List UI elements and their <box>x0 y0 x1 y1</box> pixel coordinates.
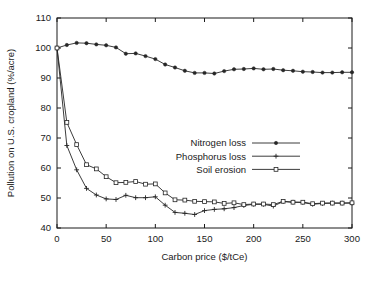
x-tick-label: 200 <box>246 233 262 244</box>
dot-marker <box>104 44 107 47</box>
square-marker <box>85 163 89 167</box>
dot-marker <box>340 71 343 74</box>
square-marker <box>163 191 167 195</box>
dot-marker <box>242 67 245 70</box>
series-soil-erosion <box>55 46 354 206</box>
dot-marker <box>114 46 117 49</box>
square-marker <box>124 181 128 185</box>
dot-marker <box>272 67 275 70</box>
plus-marker <box>212 207 217 212</box>
square-marker <box>242 203 246 207</box>
dot-marker <box>95 43 98 46</box>
square-marker <box>311 202 315 206</box>
x-tick-label: 300 <box>344 233 360 244</box>
plus-marker <box>84 186 89 191</box>
square-marker <box>203 200 207 204</box>
square-marker <box>65 121 69 125</box>
y-tick-label: 80 <box>40 102 51 113</box>
dot-marker <box>222 69 225 72</box>
x-tick-label: 150 <box>197 233 213 244</box>
y-tick-label: 50 <box>40 192 51 203</box>
x-tick-label: 100 <box>147 233 163 244</box>
dot-marker <box>311 70 314 73</box>
dot-marker <box>291 69 294 72</box>
square-marker <box>274 168 278 172</box>
plus-marker <box>192 212 197 217</box>
chart-series <box>55 41 355 217</box>
legend-label: Nitrogen loss <box>191 137 247 148</box>
plus-marker <box>64 143 69 148</box>
plus-marker <box>232 205 237 210</box>
plus-marker <box>133 195 138 200</box>
square-marker <box>134 180 138 184</box>
square-marker <box>301 200 305 204</box>
x-tick-label: 50 <box>101 233 112 244</box>
dot-marker <box>213 72 216 75</box>
square-marker <box>104 175 108 179</box>
chart-legend: Nitrogen lossPhosphorus lossSoil erosion <box>176 137 300 174</box>
chart-axes: 405060708090100110050100150200250300 <box>35 12 360 244</box>
square-marker <box>75 143 79 147</box>
square-marker <box>350 201 354 205</box>
dot-marker <box>193 71 196 74</box>
dot-marker <box>163 63 166 66</box>
square-marker <box>94 167 98 171</box>
plus-marker <box>94 193 99 198</box>
square-marker <box>173 198 177 202</box>
plus-marker <box>74 167 79 172</box>
legend-label: Phosphorus loss <box>176 151 246 162</box>
square-marker <box>281 199 285 203</box>
dot-marker <box>124 52 127 55</box>
dot-marker <box>252 67 255 70</box>
square-marker <box>183 198 187 202</box>
series-nitrogen-loss <box>55 41 353 75</box>
square-marker <box>222 202 226 206</box>
square-marker <box>55 46 59 50</box>
square-marker <box>262 202 266 206</box>
square-marker <box>232 201 236 205</box>
square-marker <box>193 199 197 203</box>
dot-marker <box>232 68 235 71</box>
dot-marker <box>154 57 157 60</box>
square-marker <box>114 181 118 185</box>
dot-marker <box>350 71 353 74</box>
dot-marker <box>173 66 176 69</box>
line-chart: 405060708090100110050100150200250300 Nit… <box>0 0 368 281</box>
legend-item-soil-erosion: Soil erosion <box>196 164 300 175</box>
dot-marker <box>134 52 137 55</box>
plus-marker <box>123 193 128 198</box>
square-marker <box>291 200 295 204</box>
y-tick-label: 100 <box>35 42 51 53</box>
dot-marker <box>75 41 78 44</box>
square-marker <box>321 201 325 205</box>
dot-marker <box>274 141 277 144</box>
plus-marker <box>274 154 279 159</box>
y-tick-label: 110 <box>36 12 51 23</box>
y-tick-label: 70 <box>40 132 51 143</box>
dot-marker <box>85 42 88 45</box>
y-tick-label: 60 <box>40 162 51 173</box>
dot-marker <box>65 43 68 46</box>
dot-marker <box>331 71 334 74</box>
square-marker <box>252 202 256 206</box>
y-tick-label: 90 <box>40 72 51 83</box>
legend-item-phosphorus-loss: Phosphorus loss <box>176 151 300 162</box>
plus-marker <box>222 206 227 211</box>
dot-marker <box>262 68 265 71</box>
square-marker <box>144 182 148 186</box>
square-marker <box>330 201 334 205</box>
x-axis-title: Carbon price ($/tCe) <box>161 251 247 262</box>
dot-marker <box>183 69 186 72</box>
plus-marker <box>202 208 207 213</box>
x-tick-label: 250 <box>295 233 311 244</box>
series-line <box>57 43 352 74</box>
square-marker <box>153 182 157 186</box>
plus-marker <box>143 195 148 200</box>
dot-marker <box>281 69 284 72</box>
y-axis-title: Pollution on U.S. cropland (%/acre) <box>5 49 16 197</box>
plus-marker <box>114 197 119 202</box>
dot-marker <box>301 70 304 73</box>
dot-marker <box>203 71 206 74</box>
square-marker <box>340 201 344 205</box>
dot-marker <box>144 54 147 57</box>
